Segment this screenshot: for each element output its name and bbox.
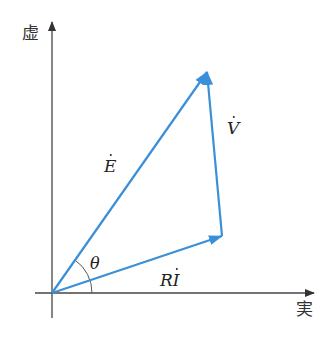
theta-label: θ: [90, 256, 100, 272]
imaginary-axis-label: 虚: [22, 25, 39, 42]
dot-accent: [110, 154, 112, 156]
vector-V-label: V: [227, 120, 239, 137]
vector-E-label: E: [104, 158, 116, 175]
vector-RI-prefix: R: [160, 270, 173, 290]
dot-accent: [233, 116, 235, 118]
vector-E-symbol: E: [104, 156, 116, 176]
vector-E: [52, 72, 207, 293]
vector-RI-label: RI: [160, 272, 180, 289]
dot-accent: [176, 268, 178, 270]
vector-V: [207, 72, 222, 236]
vector-RI: [52, 236, 222, 293]
vector-V-symbol: V: [227, 118, 239, 138]
real-axis-label: 実: [296, 301, 313, 318]
vector-RI-symbol: I: [173, 270, 180, 290]
